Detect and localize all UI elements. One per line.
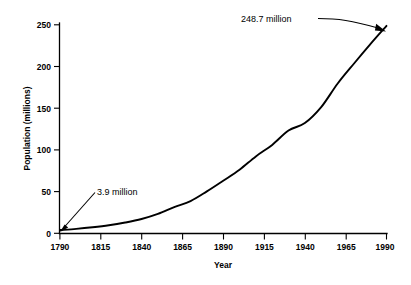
population-line-chart: 250 200 150 100 50 0 Population (million…	[0, 0, 411, 285]
x-tick-label-1890: 1890	[214, 242, 233, 252]
x-tick-label-1865: 1865	[173, 242, 192, 252]
y-tick-label-250: 250	[37, 20, 51, 30]
start-value-label: 3.9 million	[97, 187, 138, 197]
y-tick-label-100: 100	[37, 145, 51, 155]
x-tick-label-1840: 1840	[132, 242, 151, 252]
y-tick-label-150: 150	[37, 104, 51, 114]
y-tick-label-0: 0	[46, 229, 51, 239]
y-tick-label-200: 200	[37, 62, 51, 72]
x-tick-label-1965: 1965	[337, 242, 356, 252]
x-tick-label-1790: 1790	[50, 242, 69, 252]
end-value-label: 248.7 million	[241, 14, 292, 24]
chart-canvas: 250 200 150 100 50 0 Population (million…	[0, 0, 411, 285]
x-tick-label-1815: 1815	[91, 242, 110, 252]
x-axis-tick-labels: 1790 1815 1840 1865 1890 1915 1940 1965 …	[50, 242, 394, 252]
x-axis-title: Year	[214, 260, 233, 270]
x-tick-label-1915: 1915	[255, 242, 274, 252]
y-tick-label-50: 50	[42, 187, 52, 197]
x-tick-label-1940: 1940	[296, 242, 315, 252]
y-axis-title: Population (millions)	[22, 86, 32, 170]
x-tick-label-1990: 1990	[376, 242, 395, 252]
